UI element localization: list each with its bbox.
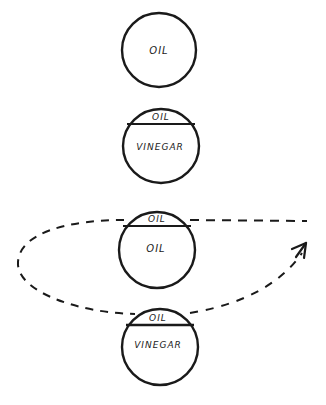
container-oil-vinegar-bottom: OIL VINEGAR bbox=[122, 309, 198, 385]
label-vinegar: VINEGAR bbox=[134, 340, 182, 350]
container-oil-vinegar: OIL VINEGAR bbox=[123, 109, 199, 183]
container-oil-oil: OIL OIL bbox=[119, 212, 195, 288]
label-oil-layer: OIL bbox=[149, 313, 167, 323]
label-oil-layer: OIL bbox=[152, 112, 170, 122]
dashed-top-segment bbox=[190, 220, 307, 221]
label-vinegar: VINEGAR bbox=[136, 142, 184, 152]
label-oil-layer: OIL bbox=[148, 214, 166, 224]
container-oil-only: OIL bbox=[122, 13, 196, 87]
label-oil: OIL bbox=[149, 45, 168, 56]
dashed-right-rise bbox=[190, 253, 302, 313]
diagram-canvas: OIL OIL VINEGAR OIL OIL OIL VINEGAR bbox=[0, 0, 326, 405]
dashed-left-loop bbox=[18, 220, 135, 314]
label-oil: OIL bbox=[146, 243, 165, 254]
